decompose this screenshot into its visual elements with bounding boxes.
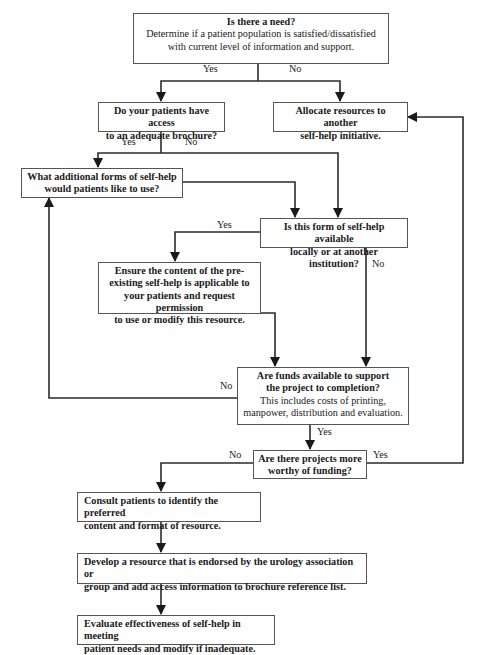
label-worthy-yes: Yes — [373, 449, 388, 460]
node-text: This includes costs of printing, — [242, 395, 404, 407]
label-brochure-no: No — [185, 136, 197, 147]
node-text: Is this form of self-help available — [265, 221, 403, 246]
label-available-yes: Yes — [217, 219, 232, 230]
node-text: with current level of information and su… — [138, 41, 384, 53]
node-text: the project to completion? — [242, 382, 404, 394]
node-text: to use or modify this resource. — [103, 314, 256, 326]
node-text: Determine if a patient population is sat… — [138, 28, 384, 40]
edge-brochure-no — [161, 153, 338, 217]
node-evaluate-effectiveness: Evaluate effectiveness of self-help in m… — [77, 615, 275, 645]
label-need-yes: Yes — [203, 63, 218, 74]
edge-available-yes — [175, 232, 260, 261]
node-text: Are funds available to support — [242, 370, 404, 382]
node-more-worthy-projects: Are there projects more worthy of fundin… — [253, 450, 367, 479]
node-text: group and add access information to broc… — [84, 581, 362, 593]
node-text: would patients like to use? — [26, 183, 178, 195]
node-funds-available: Are funds available to support the proje… — [237, 367, 409, 425]
label-available-no: No — [372, 258, 384, 269]
node-develop-resource: Develop a resource that is endorsed by t… — [77, 553, 367, 584]
node-text: Evaluate effectiveness of self-help in m… — [84, 618, 270, 643]
label-funds-yes: Yes — [317, 426, 332, 437]
edge-brochure-yes — [98, 153, 161, 167]
node-text: self-help initiative. — [278, 130, 403, 142]
node-text: Consult patients to identify the preferr… — [84, 495, 256, 520]
node-title: Is there a need? — [138, 16, 384, 28]
node-text: Are there projects more — [258, 453, 362, 465]
node-text: existing self-help is applicable to — [103, 277, 256, 289]
node-text: What additional forms of self-help — [26, 171, 178, 183]
edge-additional-available — [182, 182, 295, 217]
node-additional-forms: What additional forms of self-help would… — [21, 168, 183, 198]
node-text: content and format of resource. — [84, 520, 256, 532]
node-text: manpower, distribution and evaluation. — [242, 407, 404, 419]
node-text: your patients and request permission — [103, 290, 256, 315]
node-text: Develop a resource that is endorsed by t… — [84, 556, 362, 581]
node-text: Allocate resources to another — [278, 105, 403, 130]
edge-worthy-no — [161, 463, 253, 491]
node-available-locally: Is this form of self-help available loca… — [260, 218, 408, 248]
node-ensure-content: Ensure the content of the pre- existing … — [98, 262, 261, 314]
node-text: patient needs and modify if inadequate. — [84, 643, 270, 655]
label-need-no: No — [289, 63, 301, 74]
node-brochure-access: Do your patients have access to an adequ… — [98, 102, 225, 132]
node-text: Ensure the content of the pre- — [103, 265, 256, 277]
edge-need-no — [258, 81, 340, 101]
node-allocate-resources: Allocate resources to another self-help … — [273, 102, 408, 132]
label-funds-no: No — [220, 380, 232, 391]
node-text: Do your patients have access — [103, 105, 220, 130]
node-consult-patients: Consult patients to identify the preferr… — [77, 492, 261, 522]
node-is-there-a-need: Is there a need? Determine if a patient … — [133, 13, 389, 64]
label-worthy-no: No — [229, 449, 241, 460]
label-brochure-yes: Yes — [121, 136, 136, 147]
edge-need-yes — [161, 81, 258, 101]
node-text: worthy of funding? — [258, 465, 362, 477]
